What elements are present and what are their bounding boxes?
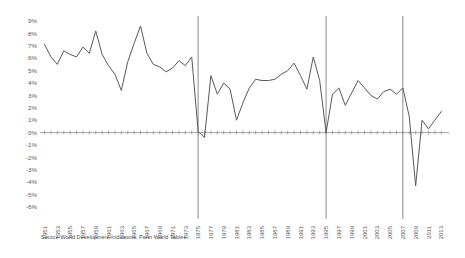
y-axis-tick-label: 1% xyxy=(28,116,37,123)
y-axis-tick-label: 0% xyxy=(28,129,37,136)
x-axis-tick-label: 1985 xyxy=(259,225,265,239)
x-axis-tick-label: 2005 xyxy=(387,225,393,239)
y-axis-tick-label: 9% xyxy=(28,17,37,24)
x-axis-tick-label: 2001 xyxy=(362,225,368,239)
x-axis-tick-label: 2013 xyxy=(438,225,444,239)
y-axis-tick-label: 5% xyxy=(28,67,37,74)
y-axis-tick-label: -3% xyxy=(26,166,38,173)
y-axis-tick-label: 7% xyxy=(28,42,37,49)
y-axis-tick-labels: 9%8%7%6%5%4%3%2%1%0%-1%-2%-3%-4%-5%-6% xyxy=(26,17,38,210)
x-axis-tick-label: 1987 xyxy=(272,225,278,239)
x-axis-tick-label: 1991 xyxy=(298,225,304,239)
y-axis-tick-label: -4% xyxy=(26,178,38,185)
y-axis-tick-label: 2% xyxy=(28,104,37,111)
series-line xyxy=(45,26,442,186)
x-axis-tick-label: 2003 xyxy=(374,225,380,239)
x-axis-tick-label: 1989 xyxy=(285,225,291,239)
x-axis-tick-label: 1995 xyxy=(323,225,329,239)
x-axis-tick-label: 1983 xyxy=(246,225,252,239)
x-axis-tick-label: 1981 xyxy=(234,225,240,239)
x-axis-tick-label: 1999 xyxy=(349,225,355,239)
series-lines xyxy=(45,26,442,186)
vertical-marker-lines xyxy=(198,16,403,219)
y-axis-tick-label: 6% xyxy=(28,54,37,61)
x-axis-tick-label: 1979 xyxy=(221,225,227,239)
y-axis-tick-label: -5% xyxy=(26,191,38,198)
x-axis xyxy=(40,131,449,135)
x-axis-tick-label: 1977 xyxy=(208,225,214,239)
x-axis-tick-label: 2009 xyxy=(413,225,419,239)
y-axis-tick-label: -6% xyxy=(26,203,38,210)
y-axis-tick-label: -1% xyxy=(26,141,38,148)
y-axis-tick-label: 4% xyxy=(28,79,37,86)
x-axis-tick-label: 2011 xyxy=(426,225,432,239)
y-axis-tick-label: 8% xyxy=(28,30,37,37)
y-axis-tick-label: -2% xyxy=(26,154,38,161)
growth-rate-line-chart: 9%8%7%6%5%4%3%2%1%0%-1%-2%-3%-4%-5%-6% 1… xyxy=(0,0,465,258)
x-axis-tick-label: 1975 xyxy=(195,225,201,239)
x-axis-tick-label: 1997 xyxy=(336,225,342,239)
source-caption: Source World Development Indicators, Pen… xyxy=(41,234,186,240)
x-axis-tick-label: 2007 xyxy=(400,225,406,239)
x-axis-tick-label: 1993 xyxy=(310,225,316,239)
chart-container: 9%8%7%6%5%4%3%2%1%0%-1%-2%-3%-4%-5%-6% 1… xyxy=(0,0,465,258)
y-axis-tick-label: 3% xyxy=(28,92,37,99)
